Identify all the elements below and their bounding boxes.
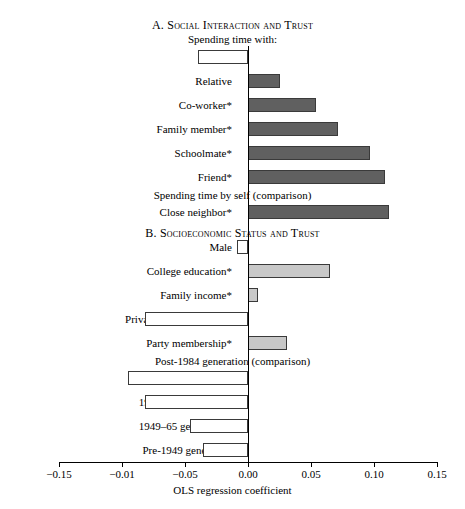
x-tick-label: −0.01 xyxy=(92,468,152,480)
bar-row: College education* xyxy=(0,260,465,282)
bar-row: Co-worker* xyxy=(0,94,465,116)
bar-row-label: Schoolmate* xyxy=(175,147,232,159)
bar-row-label: Party membership* xyxy=(146,337,232,349)
bar-row: 1949–65 generation* xyxy=(0,415,465,437)
bar xyxy=(248,170,385,184)
bar xyxy=(203,443,248,457)
bar-row: Private business owner* xyxy=(0,308,465,330)
x-tick-label: 0.15 xyxy=(407,468,465,480)
bar xyxy=(248,264,330,278)
bar-row: Family income* xyxy=(0,284,465,306)
bar-row-label: Close neighbor* xyxy=(160,206,232,218)
bar xyxy=(248,288,258,302)
bar-row: Close neighbor* xyxy=(0,201,465,223)
x-tick-label: 0.10 xyxy=(344,468,404,480)
bar xyxy=(248,98,316,112)
bar-row-label: Family member* xyxy=(157,123,232,135)
bar-row: Friend* xyxy=(0,166,465,188)
bar xyxy=(237,240,248,254)
bar-row-label: Friend* xyxy=(198,171,232,183)
x-tick xyxy=(185,462,186,467)
bar-row: 1978–84 generation* xyxy=(0,367,465,389)
bar-row: Lover xyxy=(0,46,465,68)
x-tick-label: −0.05 xyxy=(155,468,215,480)
bar xyxy=(145,395,248,409)
x-tick xyxy=(374,462,375,467)
bar-row-label: Co-worker* xyxy=(179,99,232,111)
x-tick xyxy=(311,462,312,467)
bar-row: Relative xyxy=(0,70,465,92)
bar-row: 1966–77 generation* xyxy=(0,391,465,413)
x-tick-label: 0.00 xyxy=(218,468,278,480)
x-axis-label: OLS regression coefficient xyxy=(0,484,465,496)
bar xyxy=(248,205,389,219)
bar-row: Party membership* xyxy=(0,332,465,354)
regression-coefficient-chart: A. Social Interaction and Trust Spending… xyxy=(0,0,465,509)
bar-row: Pre-1949 generation xyxy=(0,439,465,461)
x-tick-label: 0.05 xyxy=(281,468,341,480)
x-tick xyxy=(59,462,60,467)
bar-row: Male xyxy=(0,236,465,258)
x-tick-label: −0.15 xyxy=(29,468,89,480)
x-tick xyxy=(248,462,249,467)
zero-reference-line xyxy=(248,46,249,463)
panel-a-subtitle: Spending time with: xyxy=(0,33,465,45)
bar xyxy=(248,74,280,88)
bar xyxy=(145,312,248,326)
bar-row-label: Relative xyxy=(195,75,232,87)
bar xyxy=(248,122,338,136)
x-tick xyxy=(437,462,438,467)
panel-a-title: A. Social Interaction and Trust xyxy=(0,18,465,33)
bar xyxy=(128,371,248,385)
bar-row-label: Family income* xyxy=(160,289,232,301)
bar xyxy=(190,419,248,433)
bar xyxy=(248,336,287,350)
bar xyxy=(198,50,248,64)
bar-row-label: College education* xyxy=(147,265,232,277)
bar xyxy=(248,146,370,160)
bar-row-label: Male xyxy=(209,241,232,253)
bar-row: Schoolmate* xyxy=(0,142,465,164)
panel-b-comparison-subtitle: Post-1984 generation (comparison) xyxy=(0,355,465,367)
x-tick xyxy=(122,462,123,467)
bar-row: Family member* xyxy=(0,118,465,140)
panel-a-comparison-subtitle: Spending time by self (comparison) xyxy=(0,189,465,201)
